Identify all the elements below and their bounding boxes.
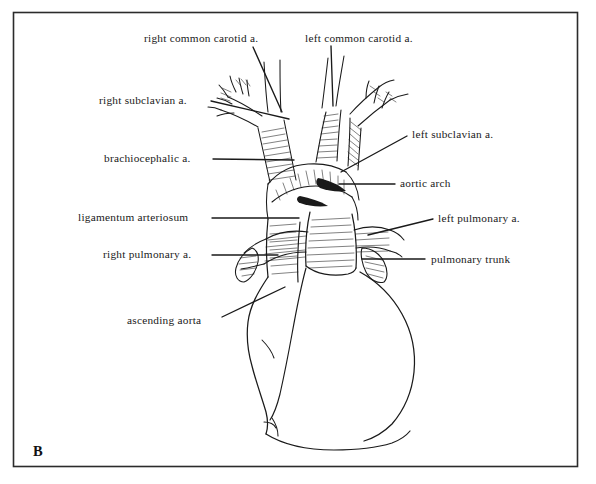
- label-left-common-carotid: left common carotid a.: [305, 33, 413, 44]
- arch-shadow-wedge: [316, 178, 346, 191]
- ascending-aorta: [267, 219, 301, 282]
- label-ascending-aorta: ascending aorta: [127, 315, 201, 326]
- arch-shadow-wedge-2: [297, 196, 328, 206]
- pulmonary-trunk: [306, 212, 357, 275]
- right-auricle: [235, 248, 258, 282]
- leader-left-common-carotid: [331, 46, 333, 106]
- label-left-subclavian: left subclavian a.: [412, 129, 493, 140]
- left-auricle: [361, 248, 387, 283]
- heart-outline: [247, 268, 414, 450]
- leader-right-common-carotid: [253, 47, 282, 112]
- label-brachiocephalic: brachiocephalic a.: [104, 153, 191, 164]
- heart-great-vessels-illustration: [0, 0, 596, 484]
- figure-frame: [14, 13, 578, 467]
- anatomical-figure-panel: right common carotid a. left common caro…: [0, 0, 596, 484]
- label-ligamentum-arteriosum: ligamentum arteriosum: [78, 212, 188, 223]
- label-left-pulmonary: left pulmonary a.: [438, 213, 520, 224]
- left-subclavian-artery: [348, 80, 408, 170]
- right-brachiocephalic-branches: [208, 60, 281, 127]
- label-pulmonary-trunk: pulmonary trunk: [431, 254, 510, 265]
- label-right-pulmonary: right pulmonary a.: [103, 249, 191, 260]
- leader-ascending-aorta: [222, 287, 285, 317]
- label-aortic-arch: aortic arch: [400, 178, 451, 189]
- panel-letter-label: B: [33, 443, 43, 460]
- label-right-common-carotid: right common carotid a.: [144, 33, 258, 44]
- leader-brachiocephalic: [213, 159, 294, 160]
- label-right-subclavian: right subclavian a.: [99, 95, 187, 106]
- leader-right-subclavian: [211, 101, 289, 119]
